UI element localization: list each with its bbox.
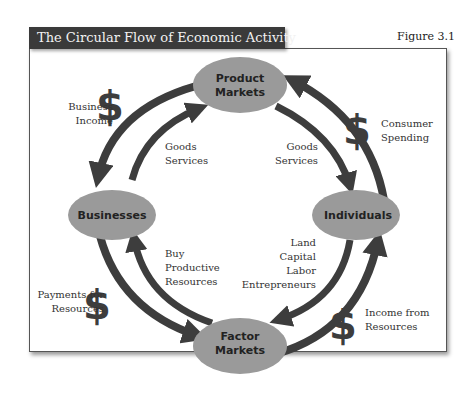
dollar-icon-consumer-spending: $	[343, 107, 371, 153]
label-goods-services-right: Goods Services	[275, 141, 318, 166]
diagram-title: The Circular Flow of Economic Activity	[29, 27, 285, 49]
svg-text:Goods: Goods	[286, 141, 318, 152]
svg-text:Resources: Resources	[52, 303, 104, 314]
svg-text:Individuals: Individuals	[324, 209, 392, 222]
svg-text:Income from: Income from	[365, 307, 430, 318]
label-goods-services-left: Goods Services	[165, 141, 208, 166]
label-consumer-spending: Consumer Spending	[381, 118, 433, 143]
svg-text:Resources: Resources	[365, 321, 417, 332]
node-product-markets: Product Markets	[193, 57, 287, 113]
svg-text:Resources: Resources	[165, 276, 217, 287]
label-buy-productive-resources: Buy Productive Resources	[165, 248, 220, 287]
svg-text:Factor: Factor	[220, 330, 260, 343]
svg-text:Capital: Capital	[280, 251, 316, 262]
svg-text:Spending: Spending	[381, 132, 430, 143]
svg-text:Productive: Productive	[165, 262, 220, 273]
svg-text:Product: Product	[216, 72, 265, 85]
svg-text:Labor: Labor	[286, 265, 316, 276]
svg-text:Consumer: Consumer	[381, 118, 433, 129]
svg-text:Entrepreneurs: Entrepreneurs	[242, 279, 316, 290]
node-factor-markets: Factor Markets	[193, 318, 287, 374]
svg-text:Income: Income	[76, 115, 113, 126]
svg-text:Businesses: Businesses	[78, 209, 147, 222]
node-individuals: Individuals	[312, 190, 400, 240]
svg-text:Payments for: Payments for	[37, 289, 104, 300]
dollar-icon-income-from-resources: $	[329, 302, 357, 348]
node-businesses: Businesses	[68, 190, 156, 240]
svg-text:Markets: Markets	[215, 344, 266, 357]
svg-text:Business: Business	[68, 101, 113, 112]
svg-text:Markets: Markets	[215, 86, 266, 99]
svg-text:Goods: Goods	[165, 141, 197, 152]
circular-flow-diagram: $ $ $ $ Product Markets Businesses Indiv…	[0, 0, 473, 403]
label-income-from-resources: Income from Resources	[365, 307, 430, 332]
svg-text:Buy: Buy	[165, 248, 185, 259]
label-land-capital-labor: Land Capital Labor Entrepreneurs	[242, 237, 317, 290]
svg-text:Services: Services	[165, 155, 208, 166]
svg-text:Services: Services	[275, 155, 318, 166]
svg-text:Land: Land	[291, 237, 317, 248]
